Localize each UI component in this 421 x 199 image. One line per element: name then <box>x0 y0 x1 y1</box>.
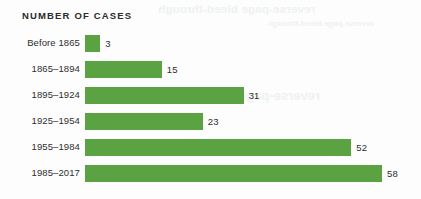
chart-figure: reverse-page bleed-through reverse-page … <box>0 0 421 199</box>
chart-title: NUMBER OF CASES <box>22 10 132 21</box>
bar <box>85 87 244 104</box>
ghost-text-line-1: reverse-page bleed-through <box>158 3 315 15</box>
bar-track: 3 <box>85 35 417 52</box>
bar-row: 1955–198452 <box>0 138 421 164</box>
bar-value-label: 15 <box>167 64 178 75</box>
bar-category-label: 1865–1894 <box>0 63 80 74</box>
bar-track: 52 <box>85 139 417 156</box>
bar-row: 1865–189415 <box>0 60 421 86</box>
bar-track: 58 <box>85 165 417 182</box>
bar-value-label: 3 <box>105 38 110 49</box>
bar-category-label: 1955–1984 <box>0 141 80 152</box>
bar-value-label: 31 <box>249 90 260 101</box>
bar <box>85 139 351 156</box>
bar-value-label: 23 <box>208 116 219 127</box>
bar <box>85 165 382 182</box>
bar <box>85 35 100 52</box>
bar <box>85 61 162 78</box>
bar-chart-plot-area: Before 186531865–1894151895–1924311925–1… <box>0 34 421 190</box>
bar-row: 1895–192431 <box>0 86 421 112</box>
bar-category-label: 1925–1954 <box>0 115 80 126</box>
bar-row: Before 18653 <box>0 34 421 60</box>
bar-category-label: 1895–1924 <box>0 89 80 100</box>
bar-value-label: 58 <box>387 168 398 179</box>
bar-track: 31 <box>85 87 417 104</box>
bar-track: 15 <box>85 61 417 78</box>
bar-track: 23 <box>85 113 417 130</box>
bar <box>85 113 203 130</box>
bar-value-label: 52 <box>356 142 367 153</box>
bar-row: 1925–195423 <box>0 112 421 138</box>
ghost-text-line-2: reverse-page bleed-through <box>268 19 374 28</box>
bar-row: 1985–201758 <box>0 164 421 190</box>
bar-category-label: Before 1865 <box>0 37 80 48</box>
bar-category-label: 1985–2017 <box>0 167 80 178</box>
